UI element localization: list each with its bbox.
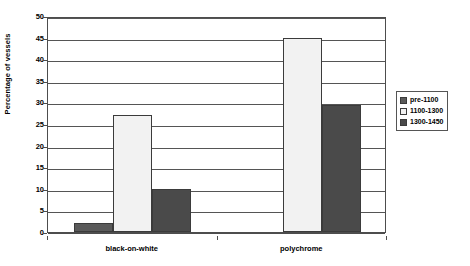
legend-swatch-icon: [400, 108, 407, 115]
y-axis-tick: [43, 233, 47, 234]
y-axis-tick-label: 25: [20, 121, 44, 129]
legend-item-label: 1100-1300: [410, 107, 443, 115]
bar: [283, 38, 322, 232]
y-axis-tick-label: 15: [20, 164, 44, 172]
x-axis-tick-label: polychrome: [217, 244, 387, 253]
legend-item[interactable]: 1100-1300: [400, 106, 443, 116]
bar: [74, 223, 113, 232]
y-axis-tick-label: 0: [20, 229, 44, 237]
y-axis-title: Percentage of vessels: [1, 4, 15, 144]
legend-item-label: pre-1100: [410, 96, 438, 104]
bar: [113, 115, 152, 232]
legend-item[interactable]: pre-1100: [400, 95, 443, 105]
y-axis-tick-label: 10: [20, 186, 44, 194]
plot-area: [47, 17, 386, 233]
x-axis-divider: [47, 236, 48, 240]
y-axis-tick-label: 40: [20, 56, 44, 64]
gridline: [48, 233, 385, 234]
bar: [152, 189, 191, 232]
y-axis-tick-label: 20: [20, 143, 44, 151]
legend-item-label: 1300-1450: [410, 118, 443, 126]
bar: [322, 105, 361, 232]
legend-swatch-icon: [400, 97, 407, 104]
bars-layer: [48, 18, 385, 232]
x-axis-tick-label: black-on-white: [47, 244, 217, 253]
x-axis-tick-labels: black-on-whitepolychrome: [47, 236, 386, 254]
y-axis-tick-label: 50: [20, 13, 44, 21]
y-axis-tick-label: 45: [20, 35, 44, 43]
bar-chart: Percentage of vessels 051015202530354045…: [0, 0, 470, 266]
x-axis-divider: [386, 236, 387, 240]
y-axis-tick-labels: 05101520253035404550: [20, 13, 44, 233]
y-axis-tick-label: 35: [20, 78, 44, 86]
legend-swatch-icon: [400, 119, 407, 126]
y-axis-tick-label: 30: [20, 99, 44, 107]
x-axis-divider: [217, 236, 218, 240]
y-axis-tick-label: 5: [20, 207, 44, 215]
chart-legend: pre-11001100-13001300-1450: [396, 91, 448, 131]
legend-item[interactable]: 1300-1450: [400, 117, 443, 127]
